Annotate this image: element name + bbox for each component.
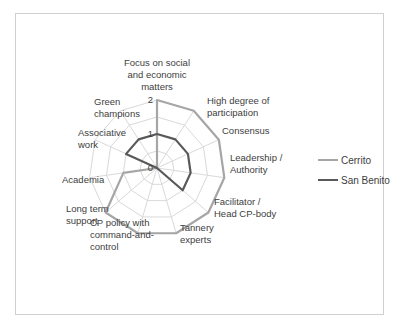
axis-label: Greenchampions (94, 96, 140, 119)
axis-label: High degree ofparticipation (207, 95, 270, 118)
tick-label: 2 (148, 94, 153, 105)
axis-label: Facilitator /Head CP-body (214, 196, 277, 219)
axis-label: Academia (62, 174, 105, 185)
legend-label: San Benito (341, 175, 390, 186)
legend-label: Cerrito (341, 155, 371, 166)
legend: Cerrito San Benito (318, 150, 390, 190)
axis-label: Tanneryexperts (180, 222, 214, 245)
legend-item-san-benito: San Benito (318, 170, 390, 190)
series-san-benito (126, 134, 191, 190)
legend-swatch-cerrito (318, 159, 338, 161)
axis-label: CP policy withcommand-and-control (90, 217, 154, 252)
legend-item-cerrito: Cerrito (318, 150, 390, 170)
tick-label: 0 (148, 162, 153, 173)
axis-label: Leadership /Authority (230, 152, 283, 175)
axis-label: Consensus (222, 125, 270, 136)
axis-label: Focus on socialand economicmatters (124, 57, 190, 92)
axis-label: Associativework (77, 127, 126, 150)
legend-swatch-san-benito (318, 179, 338, 181)
tick-label: 1 (148, 128, 153, 139)
